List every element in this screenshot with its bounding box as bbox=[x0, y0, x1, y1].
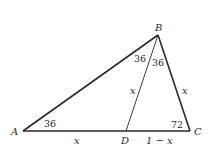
segment-bd bbox=[126, 35, 158, 131]
angle-label-abd: 36 bbox=[134, 53, 146, 64]
side-ab bbox=[23, 35, 158, 131]
vertex-label-a: A bbox=[10, 126, 18, 137]
vertex-label-d: D bbox=[120, 135, 129, 146]
side-bc bbox=[158, 35, 190, 131]
angle-label-c: 72 bbox=[171, 119, 183, 130]
vertex-label-b: B bbox=[154, 22, 162, 33]
side-label-dc: 1 − x bbox=[146, 135, 173, 146]
vertex-label-c: C bbox=[194, 126, 202, 137]
angle-label-a: 36 bbox=[44, 118, 56, 129]
angle-label-dbc: 36 bbox=[152, 57, 164, 68]
side-label-bc: x bbox=[182, 85, 188, 96]
side-label-bd: x bbox=[130, 85, 136, 96]
side-label-ad: x bbox=[74, 135, 80, 146]
triangle-diagram: A B C D 36 36 36 72 x x x 1 − x bbox=[0, 0, 214, 153]
